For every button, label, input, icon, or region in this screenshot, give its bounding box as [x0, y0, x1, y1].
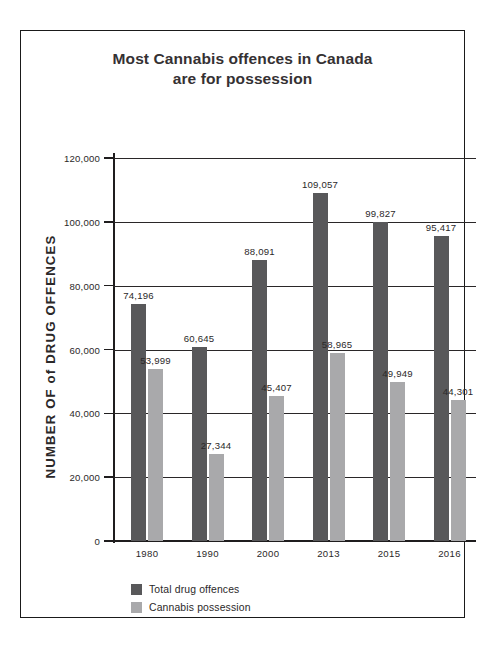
bar-value-label: 109,057 [302, 179, 338, 190]
bar-cannabis-possession[interactable]: 58,965 [330, 353, 345, 541]
bar-total-drug-offences[interactable]: 109,057 [313, 193, 328, 541]
bar-value-label: 74,196 [123, 290, 154, 301]
y-axis-tick-label: 20,000 [69, 472, 100, 483]
bar-group: 109,05758,9652013 [313, 158, 345, 541]
bar-value-label: 27,344 [201, 440, 232, 451]
bar-value-label: 95,417 [426, 222, 457, 233]
bar-value-label: 60,645 [184, 333, 215, 344]
y-axis-tick-label: 0 [94, 536, 100, 547]
x-axis-tick-label: 2000 [257, 548, 280, 559]
y-axis-tick-label: 100,000 [64, 216, 100, 227]
chart-frame: Most Cannabis offences in Canada are for… [20, 30, 465, 618]
chart-title-line-1: Most Cannabis offences in Canada [113, 50, 373, 67]
bar-cannabis-possession[interactable]: 44,301 [451, 400, 466, 541]
bar-value-label: 45,407 [261, 382, 292, 393]
bar-value-label: 88,091 [244, 246, 275, 257]
x-axis-tick-label: 2013 [317, 548, 340, 559]
chart-title-line-2: are for possession [173, 70, 313, 87]
bar-cannabis-possession[interactable]: 53,999 [148, 369, 163, 541]
chart-page: Most Cannabis offences in Canada are for… [0, 0, 487, 653]
bar-cannabis-possession[interactable]: 49,949 [390, 382, 405, 541]
legend-swatch-cannabis-possession [131, 602, 142, 613]
legend-item-cannabis-possession: Cannabis possession [131, 602, 251, 613]
x-axis-tick-label: 2015 [378, 548, 401, 559]
bar-cannabis-possession[interactable]: 27,344 [209, 454, 224, 541]
bar-group: 74,19653,9991980 [131, 158, 163, 541]
legend-label-total-drug-offences: Total drug offences [149, 584, 239, 595]
y-axis-tick-label: 80,000 [69, 280, 100, 291]
y-axis-tick-label: 120,000 [64, 153, 100, 164]
bar-total-drug-offences[interactable]: 99,827 [373, 222, 388, 541]
y-axis-label: NUMBER OF of DRUG OFFENCES [43, 157, 58, 557]
bar-group: 88,09145,4072000 [252, 158, 284, 541]
bar-value-label: 44,301 [443, 386, 474, 397]
bar-groups: 74,19653,999198060,64527,344199088,09145… [113, 158, 476, 541]
bar-cannabis-possession[interactable]: 45,407 [269, 396, 284, 541]
y-axis-tick-label: 40,000 [69, 408, 100, 419]
bar-value-label: 99,827 [365, 208, 396, 219]
x-axis-tick-label: 2016 [438, 548, 461, 559]
legend-swatch-total-drug-offences [131, 584, 142, 595]
legend-item-total-drug-offences: Total drug offences [131, 584, 251, 595]
bar-total-drug-offences[interactable]: 88,091 [252, 260, 267, 541]
bar-value-label: 49,949 [382, 368, 413, 379]
bar-group: 60,64527,3441990 [192, 158, 224, 541]
plot-area: 020,00040,00060,00080,000100,000120,000 … [113, 158, 476, 541]
bar-group: 99,82749,9492015 [373, 158, 405, 541]
legend-label-cannabis-possession: Cannabis possession [149, 602, 251, 613]
bar-value-label: 58,965 [322, 339, 353, 350]
x-axis-tick-label: 1990 [196, 548, 219, 559]
chart-title: Most Cannabis offences in Canada are for… [21, 49, 464, 90]
bar-group: 95,41744,3012016 [434, 158, 466, 541]
bar-value-label: 53,999 [140, 355, 171, 366]
chart-legend: Total drug offences Cannabis possession [131, 584, 251, 620]
y-axis-tick-label: 60,000 [69, 344, 100, 355]
x-axis-tick-label: 1980 [136, 548, 159, 559]
bar-total-drug-offences[interactable]: 74,196 [131, 304, 146, 541]
